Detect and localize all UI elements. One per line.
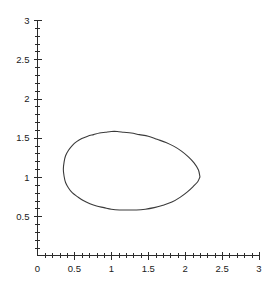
x-axis-tick-labels: 00.511.522.53 <box>35 263 262 274</box>
y-tick-label: 2 <box>24 93 29 104</box>
y-tick-label: 2.5 <box>16 54 29 65</box>
polar-curve-chart: 00.511.522.53 0.511.522.53 <box>0 0 276 286</box>
x-tick-label: 3 <box>256 263 261 274</box>
x-tick-label: 0 <box>35 263 40 274</box>
x-tick-label: 1 <box>109 263 114 274</box>
y-tick-label: 3 <box>24 15 29 26</box>
plot-container: 00.511.522.53 0.511.522.53 <box>0 0 276 286</box>
x-tick-label: 1.5 <box>142 263 155 274</box>
x-tick-label: 0.5 <box>68 263 81 274</box>
x-tick-label: 2 <box>183 263 188 274</box>
y-tick-label: 0.5 <box>16 211 29 222</box>
x-tick-label: 2.5 <box>215 263 228 274</box>
y-tick-label: 1 <box>24 172 29 183</box>
data-curve <box>63 131 200 210</box>
y-axis-tick-labels: 0.511.522.53 <box>16 15 29 222</box>
y-tick-label: 1.5 <box>16 132 29 143</box>
axes <box>38 20 260 256</box>
